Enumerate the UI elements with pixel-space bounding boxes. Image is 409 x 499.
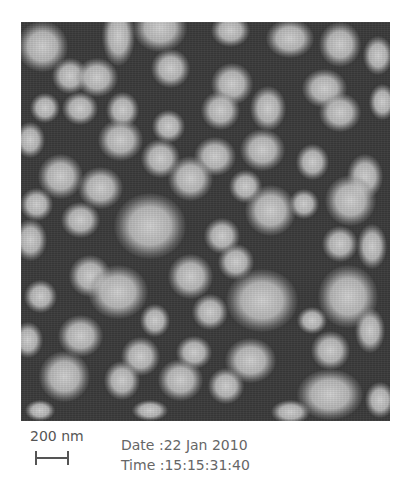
acquisition-date: Date :22 Jan 2010 (121, 437, 248, 453)
nanoparticle (319, 22, 361, 67)
nanoparticle (76, 58, 118, 97)
nanoparticle (114, 193, 186, 259)
nanoparticle (322, 226, 358, 262)
nanoparticle (369, 84, 391, 120)
nanoparticle (296, 144, 329, 180)
nanoparticle (211, 22, 250, 47)
nanoparticle (319, 93, 361, 132)
nanoparticle (271, 400, 310, 421)
nanoparticle (21, 188, 53, 221)
nanoparticle (365, 382, 390, 418)
nanoparticle (21, 322, 43, 358)
scale-bar-right-cap (67, 451, 69, 465)
nanoparticle (30, 93, 60, 123)
nanoparticle (201, 91, 240, 130)
nanoparticle (168, 254, 213, 299)
nanoparticle (311, 331, 350, 370)
nanoparticle (104, 361, 140, 400)
nanoparticle (62, 92, 98, 125)
nanoparticle (208, 368, 244, 404)
nanoparticle (152, 110, 185, 143)
nanoparticle (363, 36, 390, 75)
nanoparticle (325, 175, 376, 226)
nanoparticle (39, 351, 90, 402)
nanoparticle (61, 202, 100, 238)
nanoparticle (133, 22, 187, 52)
scale-bar-line (35, 457, 69, 459)
nanoparticle (158, 359, 203, 401)
nanoparticle (132, 400, 168, 421)
scale-bar-label: 200 nm (30, 428, 84, 444)
acquisition-time: Time :15:15:31:40 (121, 457, 250, 473)
nanoparticle (266, 22, 314, 58)
nanoparticle (355, 308, 385, 353)
nanoparticle (21, 219, 47, 261)
nanoparticle (151, 49, 190, 88)
nanoparticle (21, 122, 45, 158)
scale-bar (35, 451, 69, 465)
nanoparticle (88, 265, 148, 319)
nanoparticle (25, 400, 55, 421)
nanoparticle (250, 86, 286, 131)
nanoparticle (98, 119, 143, 161)
nanoparticle (245, 185, 296, 236)
nanoparticle (240, 129, 285, 171)
nanoparticle (226, 269, 298, 332)
nanoparticle (140, 304, 170, 337)
sem-micrograph (21, 22, 390, 421)
nanoparticle (168, 156, 213, 201)
nanoparticle (192, 294, 228, 330)
nanoparticle (297, 307, 327, 334)
nanoparticle (357, 224, 387, 269)
nanoparticle (24, 280, 57, 313)
